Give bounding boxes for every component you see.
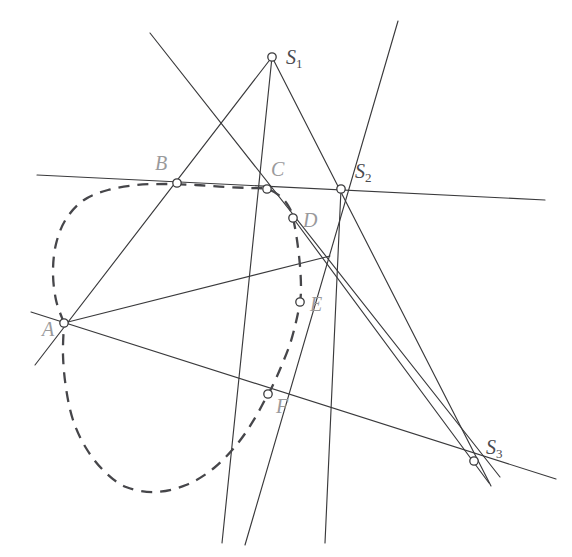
point-label-D: D bbox=[302, 209, 318, 231]
point-label-B: B bbox=[155, 152, 167, 174]
conic-curve-group bbox=[53, 184, 301, 492]
line-D-E-S3-lower bbox=[293, 218, 489, 483]
point-label-C: C bbox=[271, 158, 285, 180]
point-labels-group: ABCDEFS1S2S3 bbox=[40, 46, 503, 461]
line-B-S2-horizontal bbox=[37, 175, 545, 200]
point-marker-E[interactable] bbox=[296, 298, 304, 306]
point-label-S1: S1 bbox=[286, 46, 303, 71]
point-marker-A[interactable] bbox=[60, 319, 68, 327]
point-marker-S1[interactable] bbox=[268, 53, 276, 61]
point-label-S2: S2 bbox=[355, 160, 372, 185]
point-marker-S3[interactable] bbox=[470, 457, 478, 465]
point-label-E: E bbox=[309, 293, 322, 315]
construction-lines-group bbox=[31, 21, 556, 545]
point-label-F: F bbox=[275, 395, 289, 417]
geometry-diagram: ABCDEFS1S2S3 bbox=[0, 0, 572, 557]
line-topleft-through-C-D-S3 bbox=[150, 33, 500, 477]
line-S1-S2-S3 bbox=[272, 57, 491, 486]
point-label-S3: S3 bbox=[486, 436, 503, 461]
point-markers-group bbox=[60, 53, 478, 465]
dashed-conic bbox=[53, 184, 301, 492]
point-marker-C[interactable] bbox=[263, 185, 271, 193]
line-A-F-S3 bbox=[31, 312, 556, 479]
point-label-A: A bbox=[40, 318, 55, 340]
point-marker-F[interactable] bbox=[264, 390, 272, 398]
line-A-E-upper bbox=[64, 256, 330, 323]
point-marker-S2[interactable] bbox=[337, 185, 345, 193]
geometry-canvas: ABCDEFS1S2S3 bbox=[0, 0, 572, 557]
line-S1-C-F bbox=[222, 57, 272, 543]
point-marker-B[interactable] bbox=[173, 179, 181, 187]
point-marker-D[interactable] bbox=[289, 214, 297, 222]
